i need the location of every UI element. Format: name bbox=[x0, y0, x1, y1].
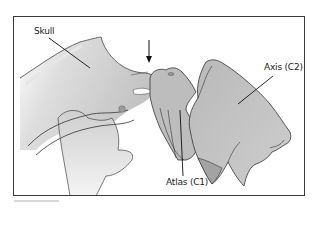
label-skull: Skull bbox=[34, 26, 54, 36]
foramen-dot bbox=[119, 106, 126, 113]
arrow-down-icon bbox=[146, 40, 152, 63]
caption-bar bbox=[14, 200, 59, 202]
label-axis: Axis (C2) bbox=[264, 62, 303, 72]
label-atlas: Atlas (C1) bbox=[166, 177, 208, 187]
